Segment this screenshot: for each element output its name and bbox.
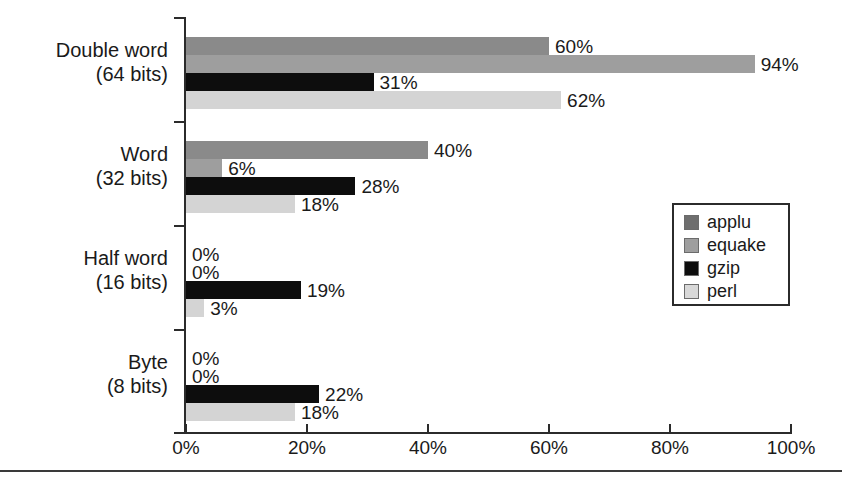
y-axis-category-label-double-word: Double word (64 bits) [56,38,168,86]
bar-equake-1 [186,55,755,73]
y-axis-tick [174,121,185,123]
bar-value-label-perl-4: 18% [301,404,339,422]
y-axis-tick [174,225,185,227]
legend-item-gzip[interactable]: gzip [684,257,788,280]
y-axis-tick [174,329,185,331]
bar-gzip-4 [186,385,319,403]
x-axis-tick [306,424,308,434]
legend-item-equake[interactable]: equake [684,234,788,257]
bar-perl-1 [186,91,561,109]
caption-divider [0,470,842,472]
y-axis-category-label-half-word: Half word (16 bits) [84,246,168,294]
legend-item-label: equake [707,235,766,256]
bar-perl-2 [186,195,295,213]
bar-value-label-perl-2: 18% [301,196,339,214]
x-axis-tick [185,424,187,434]
x-axis-tick [427,424,429,434]
chart-plot-area: 0% 20% 40% 60% 80% 100% Double word (64 … [0,0,842,455]
bar-applu-1 [186,37,549,55]
category-line-2: (32 bits) [96,166,168,190]
bar-equake-2 [186,159,222,177]
bar-value-label-equake-4: 0% [192,368,219,386]
legend-item-perl[interactable]: perl [684,280,788,303]
legend-swatch-icon [684,215,699,230]
bar-value-label-gzip-1: 31% [380,74,418,92]
x-axis-tick-label: 0% [172,437,199,459]
bar-value-label-gzip-3: 19% [307,282,345,300]
legend-swatch-icon [684,261,699,276]
category-line-1: Double word [56,38,168,62]
bar-value-label-gzip-2: 28% [361,178,399,196]
x-axis-tick [548,424,550,434]
category-line-2: (64 bits) [56,62,168,86]
category-line-2: (16 bits) [84,270,168,294]
bar-perl-3 [186,299,204,317]
bar-gzip-1 [186,73,374,91]
y-axis-tick [174,432,185,434]
x-axis-tick-label: 40% [409,437,447,459]
bar-value-label-perl-1: 62% [567,92,605,110]
legend-swatch-icon [684,284,699,299]
category-line-1: Byte [107,350,168,374]
x-axis-tick-label: 60% [530,437,568,459]
bar-value-label-applu-1: 60% [555,38,593,56]
y-axis-category-label-byte: Byte (8 bits) [107,350,168,398]
bar-applu-2 [186,141,428,159]
bar-gzip-2 [186,177,355,195]
category-line-2: (8 bits) [107,374,168,398]
legend-item-label: gzip [707,258,740,279]
x-axis-tick-label: 100% [767,437,816,459]
bar-value-label-applu-2: 40% [434,142,472,160]
bar-value-label-equake-3: 0% [192,264,219,282]
bar-value-label-perl-3: 3% [210,300,237,318]
y-axis-tick [174,17,185,19]
category-line-1: Half word [84,246,168,270]
legend-item-label: perl [707,281,737,302]
bar-value-label-equake-2: 6% [228,160,255,178]
chart-legend: applu equake gzip perl [672,203,790,306]
legend-swatch-icon [684,238,699,253]
bar-perl-4 [186,403,295,421]
x-axis-tick-label: 80% [651,437,689,459]
x-axis-tick-label: 20% [288,437,326,459]
bar-value-label-equake-1: 94% [761,56,799,74]
x-axis-tick [790,424,792,434]
y-axis-category-label-word: Word (32 bits) [96,142,168,190]
legend-item-label: applu [707,212,751,233]
bar-gzip-3 [186,281,301,299]
x-axis-tick [669,424,671,434]
figure-container: 0% 20% 40% 60% 80% 100% Double word (64 … [0,0,842,490]
legend-item-applu[interactable]: applu [684,211,788,234]
category-line-1: Word [96,142,168,166]
x-axis-line [184,432,792,434]
